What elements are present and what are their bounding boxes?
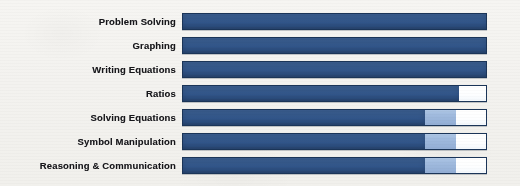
bar-category-label: Reasoning & Communication (0, 160, 182, 171)
bar-segment-unfilled (456, 158, 486, 173)
bar-track (182, 61, 487, 78)
bar-track (182, 133, 487, 150)
bar-chart: Problem SolvingGraphingWriting Equations… (0, 0, 520, 186)
bar-segment-light-blue (425, 134, 455, 149)
bar-category-label: Solving Equations (0, 112, 182, 123)
bar-row: Ratios (0, 84, 520, 103)
bar-category-label: Graphing (0, 40, 182, 51)
bar-row: Graphing (0, 36, 520, 55)
bar-segment-unfilled (459, 86, 486, 101)
bar-category-label: Writing Equations (0, 64, 182, 75)
bar-segment-light-blue (425, 110, 455, 125)
bar-category-label: Ratios (0, 88, 182, 99)
bar-track (182, 157, 487, 174)
bar-row: Solving Equations (0, 108, 520, 127)
bar-segment-dark-blue (183, 86, 459, 101)
bar-track (182, 37, 487, 54)
bar-category-label: Symbol Manipulation (0, 136, 182, 147)
bar-segment-dark-blue (183, 62, 486, 77)
bar-row: Problem Solving (0, 12, 520, 31)
bar-segment-light-blue (425, 158, 455, 173)
chart-plot-area: Problem SolvingGraphingWriting Equations… (0, 0, 520, 186)
bar-track (182, 85, 487, 102)
bar-segment-dark-blue (183, 38, 486, 53)
bar-segment-dark-blue (183, 134, 425, 149)
bar-row: Reasoning & Communication (0, 156, 520, 175)
bar-row: Writing Equations (0, 60, 520, 79)
bar-category-label: Problem Solving (0, 16, 182, 27)
bar-segment-dark-blue (183, 110, 425, 125)
bar-segment-dark-blue (183, 158, 425, 173)
bar-track (182, 13, 487, 30)
bar-segment-unfilled (456, 134, 486, 149)
bar-row: Symbol Manipulation (0, 132, 520, 151)
bar-segment-dark-blue (183, 14, 486, 29)
bar-track (182, 109, 487, 126)
bar-segment-unfilled (456, 110, 486, 125)
